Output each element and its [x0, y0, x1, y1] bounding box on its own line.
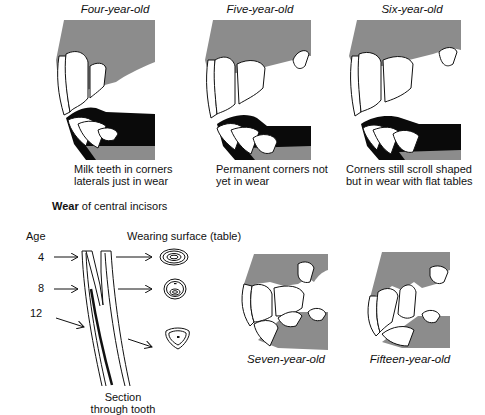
panel-title-fifteen-year-old: Fifteen-year-old — [360, 353, 460, 365]
panel-title-seven-year-old: Seven-year-old — [236, 353, 336, 365]
caption-six-year-old: Corners still scroll shaped but in wear … — [346, 163, 473, 187]
table-age-12 — [166, 328, 190, 349]
tooth-section-caption: Section through tooth — [88, 391, 158, 415]
table-age-4 — [160, 249, 188, 265]
jaw-illustration-fifteen-year-old — [362, 252, 454, 348]
panel-title-six-year-old: Six-year-old — [357, 3, 467, 15]
table-age-8 — [164, 279, 186, 299]
tooth-section-diagram — [0, 0, 240, 413]
jaw-illustration-six-year-old — [349, 20, 464, 160]
jaw-illustration-seven-year-old — [238, 254, 330, 350]
